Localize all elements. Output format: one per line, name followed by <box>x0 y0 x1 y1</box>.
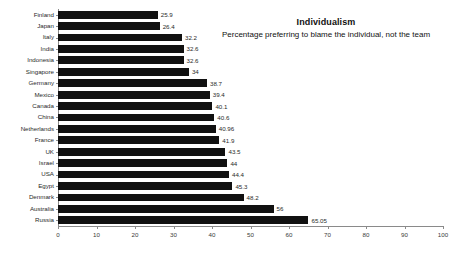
bar-row: Denmark48.2 <box>58 192 443 203</box>
x-axis-label: 30 <box>170 231 177 238</box>
bar <box>58 159 227 167</box>
bar-value-label: 40.96 <box>219 124 234 133</box>
bar-value-label: 32.2 <box>185 33 197 42</box>
bar-value-label: 32.6 <box>187 44 199 53</box>
bar <box>58 216 308 224</box>
category-label: Denmark <box>0 192 54 201</box>
category-label: Germany <box>0 78 54 87</box>
category-label: Singapore <box>0 67 54 76</box>
bar <box>58 34 182 42</box>
x-axis-tick <box>443 226 444 229</box>
x-axis-tick <box>405 226 406 229</box>
category-label: Mexico <box>0 90 54 99</box>
x-axis-tick <box>135 226 136 229</box>
category-label: Canada <box>0 101 54 110</box>
bar-value-label: 65.05 <box>311 216 326 225</box>
bar-value-label: 40.1 <box>215 102 227 111</box>
x-axis-label: 60 <box>286 231 293 238</box>
bar-row: Indonesia32.6 <box>58 55 443 66</box>
bar <box>58 45 184 53</box>
bar-row: Singapore34 <box>58 66 443 77</box>
x-axis-label: 70 <box>324 231 331 238</box>
x-axis-label: 50 <box>247 231 254 238</box>
x-axis-tick <box>251 226 252 229</box>
bar-value-label: 43.5 <box>228 147 240 156</box>
category-label: UK <box>0 147 54 156</box>
category-label: Russia <box>0 215 54 224</box>
bar-value-label: 25.9 <box>161 10 173 19</box>
bar-value-label: 45.3 <box>235 182 247 191</box>
x-axis-tick <box>328 226 329 229</box>
bar <box>58 148 225 156</box>
bar-value-label: 48.2 <box>247 193 259 202</box>
bar-row: USA44.4 <box>58 169 443 180</box>
bar <box>58 171 229 179</box>
x-axis-label: 20 <box>132 231 139 238</box>
category-label: Indonesia <box>0 55 54 64</box>
bar-row: Finland25.9 <box>58 9 443 20</box>
bar <box>58 182 232 190</box>
x-axis-label: 100 <box>438 231 448 238</box>
x-axis-label: 0 <box>56 231 59 238</box>
x-axis-tick <box>289 226 290 229</box>
bar <box>58 68 189 76</box>
bar-value-label: 56 <box>277 204 284 213</box>
bar-value-label: 26.4 <box>163 22 175 31</box>
bar-row: India32.6 <box>58 43 443 54</box>
bar-value-label: 39.4 <box>213 90 225 99</box>
category-label: Netherlands <box>0 124 54 133</box>
bar-row: Russia65.05 <box>58 215 443 226</box>
x-axis-tick <box>366 226 367 229</box>
bar <box>58 102 212 110</box>
bar <box>58 91 210 99</box>
bar <box>58 125 216 133</box>
bar-row: China40.6 <box>58 112 443 123</box>
bar <box>58 22 160 30</box>
bar <box>58 114 214 122</box>
x-axis-tick <box>174 226 175 229</box>
bar-value-label: 41.9 <box>222 136 234 145</box>
bar-row: Japan26.4 <box>58 20 443 31</box>
bar-row: Canada40.1 <box>58 100 443 111</box>
bar-row: Egypt45.3 <box>58 180 443 191</box>
bar-row: Israel44 <box>58 157 443 168</box>
bar-value-label: 40.6 <box>217 113 229 122</box>
x-axis-tick <box>212 226 213 229</box>
category-label: Israel <box>0 158 54 167</box>
category-label: Australia <box>0 204 54 213</box>
bar-row: Mexico39.4 <box>58 89 443 100</box>
bar-value-label: 44 <box>230 159 237 168</box>
bar-value-label: 34 <box>192 67 199 76</box>
category-label: Egypt <box>0 181 54 190</box>
bar <box>58 11 158 19</box>
bar <box>58 79 207 87</box>
category-label: India <box>0 44 54 53</box>
x-axis-label: 90 <box>401 231 408 238</box>
category-label: China <box>0 112 54 121</box>
bar <box>58 205 274 213</box>
bar-row: Germany38.7 <box>58 78 443 89</box>
category-label: Japan <box>0 21 54 30</box>
bar-row: Australia56 <box>58 203 443 214</box>
x-axis-label: 80 <box>363 231 370 238</box>
chart-container: Individualism Percentage preferring to b… <box>0 0 459 255</box>
x-axis-tick <box>58 226 59 229</box>
bar-value-label: 44.4 <box>232 170 244 179</box>
category-label: Finland <box>0 10 54 19</box>
x-axis-label: 10 <box>93 231 100 238</box>
x-axis-tick <box>97 226 98 229</box>
bar-row: Italy32.2 <box>58 32 443 43</box>
category-label: France <box>0 135 54 144</box>
category-label: USA <box>0 169 54 178</box>
bar-row: UK43.5 <box>58 146 443 157</box>
bar <box>58 136 219 144</box>
bar-row: Netherlands40.96 <box>58 123 443 134</box>
category-label: Italy <box>0 32 54 41</box>
bar <box>58 194 244 202</box>
x-axis-label: 40 <box>209 231 216 238</box>
bar-row: France41.9 <box>58 135 443 146</box>
bar-value-label: 38.7 <box>210 79 222 88</box>
bar <box>58 56 184 64</box>
bar-value-label: 32.6 <box>187 56 199 65</box>
plot-area: Finland25.9Japan26.4Italy32.2India32.6In… <box>58 9 443 226</box>
